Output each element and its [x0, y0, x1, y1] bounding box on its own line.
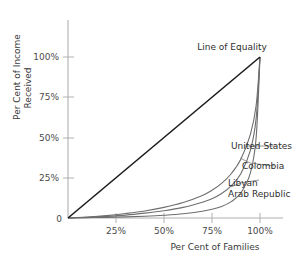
y-tick-label-75: 75% [39, 92, 59, 102]
y-tick-label-100: 100% [33, 52, 59, 62]
series-label-libyan-line2: Arab Republic [228, 189, 290, 199]
y-axis-title-line1: Per Cent of Income [12, 34, 22, 120]
series-label-united-states: United States [231, 141, 292, 151]
annotation-line-of-equality: Line of Equality [197, 42, 267, 52]
series-label-colombia: Colombia [242, 161, 284, 171]
y-axis-title-line2: Received [23, 68, 33, 109]
x-tick-label-75: 75% [202, 226, 222, 236]
y-tick-label-50: 50% [39, 133, 59, 143]
chart-canvas: 100% 75% 50% 25% 0 25% 50% 75% 100% [0, 0, 301, 253]
y-tick-label-0: 0 [56, 214, 62, 224]
x-tick-label-50: 50% [154, 226, 174, 236]
x-tick-label-100: 100% [247, 226, 273, 236]
y-tick-label-25: 25% [39, 173, 59, 183]
lorenz-curve-chart: 100% 75% 50% 25% 0 25% 50% 75% 100% [0, 0, 301, 253]
series-label-libyan-line1: Libyan [228, 178, 258, 188]
x-axis-title: Per Cent of Families [170, 242, 259, 252]
x-tick-label-25: 25% [106, 226, 126, 236]
